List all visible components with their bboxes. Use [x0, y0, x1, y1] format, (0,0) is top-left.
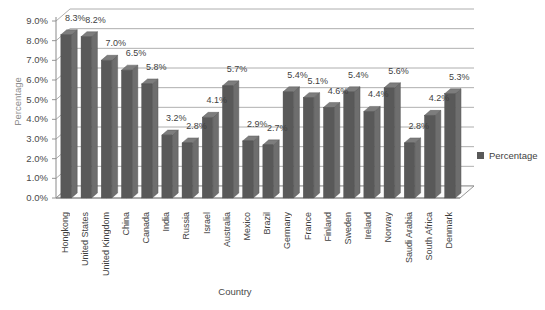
bar-side-face: [152, 79, 158, 198]
bar-value-label: 8.3%: [65, 13, 86, 23]
bar: [303, 98, 314, 198]
bar-side-face: [92, 32, 98, 198]
bar-side-face: [233, 81, 239, 198]
bar-value-label: 3.2%: [166, 113, 187, 123]
bar: [384, 88, 395, 198]
bar: [445, 94, 456, 198]
x-axis-category-label: Australia: [223, 212, 232, 247]
x-axis-category-label: Germany: [283, 212, 292, 249]
x-axis-category-label: India: [162, 212, 171, 232]
bar-value-label: 6.5%: [126, 48, 147, 58]
bar-chart: 9.0%8.0%7.0%6.0%5.0%4.0%3.0%2.0%1.0%0.0%…: [0, 0, 545, 310]
bar-side-face: [395, 83, 401, 198]
bar: [344, 92, 355, 198]
bar-value-label: 7.0%: [106, 38, 127, 48]
x-axis-category-label: Finland: [324, 212, 333, 242]
x-axis-category-label: Canada: [142, 212, 151, 244]
y-axis-tick-label: 6.0%: [2, 75, 48, 85]
bar-value-label: 4.4%: [368, 89, 389, 99]
y-axis-tick-label: 7.0%: [2, 55, 48, 65]
bar-value-label: 5.6%: [388, 66, 409, 76]
bar-value-label: 2.9%: [247, 119, 268, 129]
bar-value-label: 5.1%: [308, 76, 329, 86]
legend: Percentage: [477, 150, 538, 161]
bar: [243, 141, 254, 198]
bar-side-face: [314, 93, 320, 198]
bar: [101, 60, 112, 198]
bar-side-face: [71, 30, 77, 198]
x-axis-category-label: Sweden: [344, 212, 353, 245]
x-axis-category-label: Israel: [203, 212, 212, 234]
bar: [162, 135, 173, 198]
x-axis-title: Country: [0, 286, 470, 297]
bar-value-label: 4.6%: [328, 86, 349, 96]
bar-value-label: 5.8%: [146, 62, 167, 72]
bar: [142, 84, 153, 198]
bar: [364, 111, 375, 198]
bar-value-label: 4.1%: [207, 95, 228, 105]
bar: [182, 143, 193, 198]
y-axis-tick-label: 5.0%: [2, 95, 48, 105]
bar-value-label: 4.2%: [429, 93, 450, 103]
y-axis-tick-labels: 9.0%8.0%7.0%6.0%5.0%4.0%3.0%2.0%1.0%0.0%: [0, 0, 48, 310]
y-axis-tick-label: 2.0%: [2, 154, 48, 164]
bar: [283, 92, 294, 198]
x-axis-category-label: Denmark: [445, 212, 454, 249]
bar-value-label: 5.7%: [227, 64, 248, 74]
y-axis-tick-label: 9.0%: [2, 16, 48, 26]
y-axis-title: Percentage: [12, 57, 23, 147]
bar: [61, 35, 72, 198]
bar: [263, 145, 274, 198]
bar-side-face: [354, 87, 360, 198]
bar-side-face: [334, 102, 340, 198]
bar: [323, 108, 334, 198]
bar-value-label: 2.8%: [186, 121, 207, 131]
bar-value-label: 5.3%: [449, 72, 470, 82]
bar-side-face: [213, 112, 219, 198]
y-axis-tick-label: 4.0%: [2, 114, 48, 124]
x-axis-category-label: France: [304, 212, 313, 240]
bar-value-label: 5.4%: [287, 70, 308, 80]
bar-side-face: [132, 65, 138, 198]
bar-side-face: [273, 140, 279, 198]
bar-side-face: [455, 89, 461, 198]
x-axis-category-label: Mexico: [243, 212, 252, 241]
y-axis-tick-label: 3.0%: [2, 134, 48, 144]
bar-value-label: 2.8%: [409, 121, 430, 131]
bar-value-label: 2.7%: [267, 123, 288, 133]
bar-side-face: [112, 55, 118, 198]
x-axis-category-label: Hongkong: [61, 212, 70, 253]
x-axis-category-label: United States: [81, 212, 90, 266]
bar: [121, 70, 132, 198]
legend-label-percentage: Percentage: [489, 150, 538, 161]
y-axis-tick-label: 8.0%: [2, 36, 48, 46]
x-axis-category-label: Norway: [384, 212, 393, 243]
bar-value-label: 5.4%: [348, 70, 369, 80]
x-axis-category-label: South Africa: [425, 212, 434, 261]
legend-swatch-percentage: [477, 152, 484, 159]
bar-side-face: [415, 138, 421, 198]
x-axis-category-label: Ireland: [364, 212, 373, 240]
x-axis-category-label: China: [122, 212, 131, 236]
bar-side-face: [172, 130, 178, 198]
y-axis-tick-label: 1.0%: [2, 173, 48, 183]
bar-side-face: [193, 138, 199, 198]
x-axis-category-label: Russia: [182, 212, 191, 240]
x-axis-category-label: Brazil: [263, 212, 272, 235]
bar: [81, 37, 92, 198]
bar-side-face: [253, 136, 259, 198]
x-axis-category-label: Saudi Arabia: [405, 212, 414, 263]
bar-side-face: [294, 87, 300, 198]
y-axis-tick-label: 0.0%: [2, 193, 48, 203]
bar-value-label: 8.2%: [85, 15, 106, 25]
x-axis-category-label: United Kingdom: [102, 212, 111, 276]
bar-side-face: [435, 110, 441, 198]
bar-side-face: [374, 106, 380, 198]
bar: [404, 143, 415, 198]
